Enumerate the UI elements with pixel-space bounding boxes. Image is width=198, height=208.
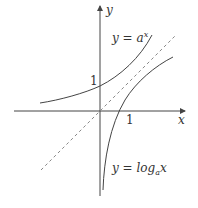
- exponential-label: y = ax: [111, 30, 149, 45]
- y-tick-one: 1: [90, 74, 98, 88]
- exponential-curve: [40, 35, 152, 103]
- x-axis-label: x: [178, 113, 185, 127]
- x-tick-one: 1: [126, 113, 134, 127]
- function-diagram: y x 1 1 y = ax y = logax: [0, 0, 198, 208]
- y-axis-label: y: [105, 3, 113, 17]
- identity-line: [41, 35, 176, 170]
- logarithm-label: y = logax: [111, 161, 167, 177]
